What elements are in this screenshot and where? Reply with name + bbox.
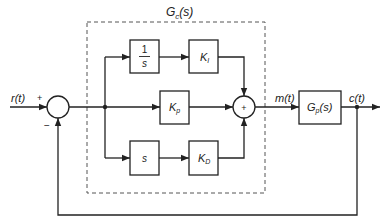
output-signal-label: c(t) <box>349 92 365 104</box>
manipulated-signal-label: m(t) <box>275 92 295 104</box>
error-plus-sign: + <box>37 93 42 103</box>
input-signal-label: r(t) <box>11 92 25 104</box>
integrator-denominator: s <box>142 58 147 69</box>
integrator-numerator: 1 <box>142 44 148 55</box>
derivative-output-line <box>218 118 244 158</box>
pid-sum-sign: + <box>241 103 246 113</box>
error-minus-sign: − <box>44 120 50 131</box>
error-summing-junction <box>47 96 69 118</box>
plant-label: Gp(s) <box>307 101 333 115</box>
controller-label: Gc(s) <box>166 5 193 21</box>
derivative-label: s <box>142 153 147 164</box>
integral-output-line <box>218 57 244 96</box>
block-diagram: Gc(s) r(t) + − 1 s KI Kp s KD + m(t) G <box>0 0 386 223</box>
